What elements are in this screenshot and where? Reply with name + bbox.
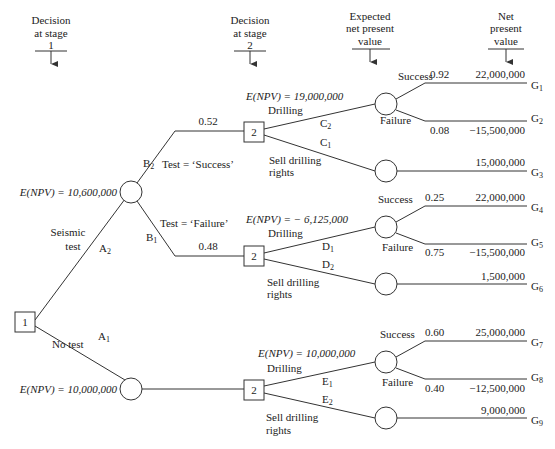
branch-seismic-test (35, 199, 125, 320)
svg-text:Failure: Failure (382, 376, 413, 388)
svg-text:Success: Success (378, 193, 413, 205)
chance-node-drilling (375, 93, 397, 115)
svg-text:Decision: Decision (31, 14, 71, 26)
svg-text:Drilling: Drilling (268, 227, 303, 239)
svg-text:Drilling: Drilling (267, 362, 302, 374)
svg-text:G7: G7 (531, 336, 543, 350)
svg-text:value: value (494, 35, 518, 47)
svg-text:D1: D1 (322, 240, 334, 254)
svg-text:E(NPV) = − 6,125,000: E(NPV) = − 6,125,000 (245, 213, 348, 226)
chance-node-no-test (120, 378, 142, 400)
svg-text:−12,500,000: −12,500,000 (469, 382, 525, 394)
svg-text:rights: rights (269, 166, 294, 178)
svg-text:Sell drilling: Sell drilling (266, 411, 319, 423)
svg-text:G6: G6 (531, 280, 543, 294)
svg-text:−15,500,000: −15,500,000 (469, 124, 525, 136)
chance-node-drilling (375, 351, 397, 373)
svg-text:G1: G1 (531, 79, 543, 93)
svg-text:2: 2 (251, 250, 257, 262)
chance-node-drilling (375, 216, 397, 238)
svg-text:at stage: at stage (34, 27, 67, 39)
svg-text:0.40: 0.40 (425, 382, 445, 394)
svg-text:No test: No test (52, 338, 83, 350)
svg-text:A1: A1 (98, 330, 110, 344)
svg-text:Sell drilling: Sell drilling (267, 276, 320, 288)
svg-text:0.52: 0.52 (198, 115, 217, 127)
svg-text:Net: Net (498, 10, 514, 22)
svg-text:1,500,000: 1,500,000 (481, 270, 526, 282)
stage2-block-1: 2 E(NPV) = 19,000,000 Drilling C2 C1 Sel… (244, 68, 543, 182)
svg-text:value: value (358, 35, 382, 47)
chance-node-test-result (120, 181, 142, 203)
outcome-line-failure (396, 110, 527, 121)
svg-text:1: 1 (48, 39, 54, 51)
svg-text:E1: E1 (322, 375, 333, 389)
svg-text:test: test (65, 240, 80, 252)
svg-text:net present: net present (346, 22, 394, 34)
svg-text:A2: A2 (99, 242, 111, 256)
svg-text:25,000,000: 25,000,000 (476, 326, 526, 338)
stage2-block-2: 2 E(NPV) = − 6,125,000 Drilling D1 D2 Se… (244, 191, 543, 300)
outcome-line-success (396, 206, 527, 222)
svg-text:Success: Success (398, 70, 433, 82)
svg-text:Seismic: Seismic (51, 226, 86, 238)
branch-test-success (137, 131, 244, 183)
svg-text:0.25: 0.25 (425, 191, 445, 203)
chance-node-sell (375, 160, 397, 182)
svg-text:G8: G8 (531, 371, 543, 385)
svg-text:Test = ‘Failure’: Test = ‘Failure’ (160, 217, 228, 229)
outcome-line-success (396, 341, 527, 357)
svg-text:0.75: 0.75 (425, 246, 445, 258)
svg-text:0.60: 0.60 (425, 326, 445, 338)
svg-text:Failure: Failure (380, 114, 411, 126)
outcome-line-success (396, 83, 527, 99)
outcome-line-failure (396, 233, 527, 244)
svg-text:Failure: Failure (382, 241, 413, 253)
svg-text:C1: C1 (320, 136, 331, 150)
svg-text:9,000,000: 9,000,000 (481, 404, 526, 416)
svg-text:E(NPV) = 10,000,000: E(NPV) = 10,000,000 (19, 383, 118, 396)
svg-text:1: 1 (22, 316, 28, 328)
svg-text:G3: G3 (531, 166, 543, 180)
svg-text:D2: D2 (322, 258, 334, 272)
svg-text:0.08: 0.08 (430, 124, 450, 136)
chance-node-sell (375, 407, 397, 429)
svg-text:rights: rights (266, 424, 291, 436)
header-npv: Net present value (488, 10, 524, 62)
svg-text:E(NPV) = 10,600,000: E(NPV) = 10,600,000 (19, 186, 118, 199)
svg-text:−15,500,000: −15,500,000 (469, 246, 525, 258)
svg-text:G2: G2 (531, 112, 543, 126)
svg-text:Decision: Decision (230, 14, 270, 26)
chance-node-sell (375, 273, 397, 295)
svg-text:E(NPV) = 19,000,000: E(NPV) = 19,000,000 (245, 90, 344, 103)
svg-text:B1: B1 (146, 231, 157, 245)
svg-text:G5: G5 (531, 236, 543, 250)
svg-text:Drilling: Drilling (268, 104, 303, 116)
branch-no-test (35, 326, 125, 380)
svg-text:present: present (490, 22, 522, 34)
svg-text:0.48: 0.48 (198, 240, 218, 252)
svg-text:E2: E2 (322, 393, 333, 407)
svg-text:0.92: 0.92 (430, 68, 449, 80)
svg-text:G4: G4 (531, 201, 543, 215)
svg-text:Success: Success (380, 328, 415, 340)
header-expected-npv: Expected net present value (346, 10, 394, 62)
header-stage1: Decision at stage 1 (31, 14, 71, 64)
svg-text:G9: G9 (531, 414, 543, 428)
decision-tree-diagram: Decision at stage 1 Decision at stage 2 … (0, 0, 555, 449)
svg-text:Sell drilling: Sell drilling (269, 154, 322, 166)
svg-text:15,000,000: 15,000,000 (476, 156, 526, 168)
svg-text:C2: C2 (320, 117, 331, 131)
svg-text:2: 2 (247, 39, 253, 51)
svg-text:rights: rights (267, 288, 292, 300)
header-stage2: Decision at stage 2 (230, 14, 270, 64)
svg-text:22,000,000: 22,000,000 (476, 68, 526, 80)
svg-text:2: 2 (251, 384, 257, 396)
stage2-block-3: 2 E(NPV) = 10,000,000 Drilling E1 E2 Sel… (244, 326, 543, 436)
svg-text:at stage: at stage (233, 27, 266, 39)
svg-text:B2: B2 (143, 157, 154, 171)
svg-text:E(NPV) = 10,000,000: E(NPV) = 10,000,000 (257, 347, 356, 360)
svg-text:2: 2 (251, 126, 257, 138)
svg-text:22,000,000: 22,000,000 (476, 191, 526, 203)
svg-text:Expected: Expected (350, 10, 391, 22)
